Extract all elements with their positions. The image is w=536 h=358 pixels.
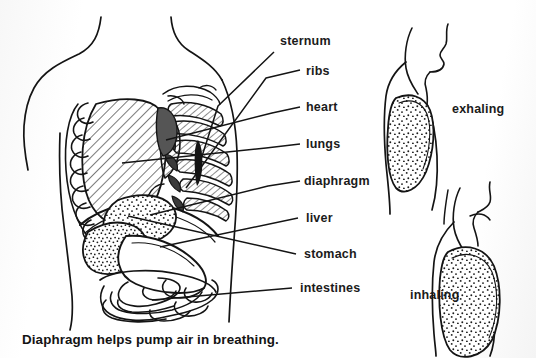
label-diaphragm: diaphragm <box>304 175 370 188</box>
label-sternum: sternum <box>280 35 331 48</box>
side-figure-inhaling <box>433 182 500 357</box>
label-stomach: stomach <box>304 248 357 261</box>
side-figure-exhaling <box>385 24 491 224</box>
label-inhaling: inhaling <box>410 289 460 302</box>
leader-liver <box>160 218 298 247</box>
anatomy-illustration <box>0 0 536 358</box>
label-ribs: ribs <box>306 65 330 78</box>
label-exhaling: exhaling <box>452 103 504 116</box>
label-lungs: lungs <box>306 138 340 151</box>
figure-caption: Diaphragm helps pump air in breathing. <box>22 333 279 346</box>
label-heart: heart <box>306 101 338 114</box>
figure-canvas: sternum ribs heart lungs diaphragm liver… <box>0 0 536 358</box>
label-intestines: intestines <box>300 282 360 295</box>
label-liver: liver <box>306 212 333 225</box>
